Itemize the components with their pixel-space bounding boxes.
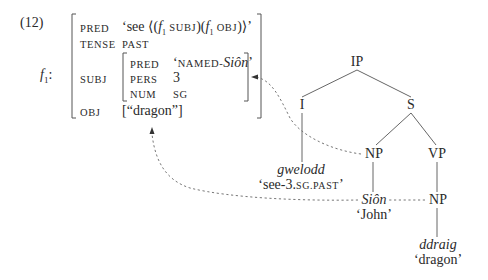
diagram-lines	[0, 0, 488, 280]
arrowhead-obj	[150, 127, 155, 134]
value-subj-num: SG	[173, 88, 188, 102]
fstructure-label: f1:	[40, 67, 52, 88]
subj-pred-suffix: ’	[248, 55, 253, 70]
leaf-verb-form: gwelodd	[277, 162, 324, 178]
branch-s-np	[376, 113, 411, 145]
leaf-subj-form: Siôn	[360, 192, 389, 208]
avm-outer-bracket-right	[257, 14, 261, 118]
subj-pred-named: NAMED-	[178, 58, 224, 69]
value-tense: PAST	[122, 38, 149, 52]
attr-obj: OBJ	[80, 106, 100, 120]
attr-subj-num: NUM	[130, 88, 156, 102]
verb-gloss-prefix: ‘see-3.	[258, 177, 296, 192]
branch-ip-i	[302, 70, 357, 97]
node-vp: VP	[428, 146, 446, 162]
pred-suffix: )⟩’	[237, 19, 252, 34]
f-label-colon: :	[48, 67, 52, 82]
verb-gloss-sc: SG.PAST	[296, 180, 339, 191]
value-obj: [“dragon”]	[122, 103, 183, 119]
avm-subj-bracket-left	[123, 53, 127, 101]
node-s: S	[407, 97, 415, 113]
attr-tense: TENSE	[80, 38, 116, 52]
verb-gloss-suffix: ’	[339, 177, 344, 192]
value-subj-pers: 3	[173, 70, 180, 86]
node-i: I	[300, 97, 305, 113]
attr-subj: SUBJ	[80, 73, 107, 87]
attr-subj-pers: PERS	[130, 73, 158, 87]
value-subj-pred: ‘NAMED-Siôn’	[173, 55, 253, 72]
pred-obj: OBJ	[213, 22, 237, 33]
dotted-link-subj	[256, 77, 361, 154]
node-np-obj: NP	[429, 192, 447, 208]
leaf-verb-gloss: ‘see-3.SG.PAST’	[258, 177, 343, 194]
leaf-obj-form: ddraig	[419, 237, 456, 253]
example-number: (12)	[20, 15, 43, 31]
attr-pred: PRED	[80, 22, 109, 36]
subj-pred-sion: Siôn	[223, 55, 248, 70]
pred-prefix: ‘see ⟨(	[122, 19, 158, 34]
leaf-obj-gloss: ‘dragon’	[414, 252, 462, 268]
leaf-subj-gloss: ‘John’	[356, 207, 392, 223]
avm-outer-bracket-left	[72, 14, 76, 118]
pred-subj: SUBJ	[166, 22, 196, 33]
arrowhead-subj	[251, 75, 258, 80]
branch-ip-s	[357, 70, 411, 97]
node-np-subj: NP	[365, 146, 383, 162]
branch-s-vp	[411, 113, 436, 145]
pred-mid: )(	[196, 19, 205, 34]
node-ip: IP	[351, 54, 363, 70]
attr-subj-pred: PRED	[130, 58, 159, 72]
